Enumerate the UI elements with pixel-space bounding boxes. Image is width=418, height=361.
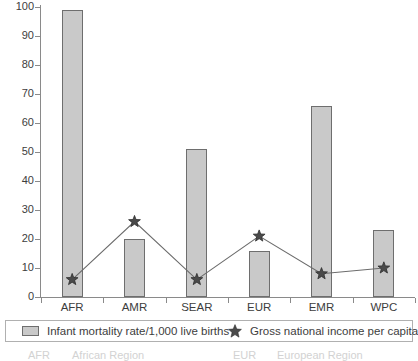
y-axis-tick-label: 100 <box>16 1 34 12</box>
y-axis-tick-mark <box>35 94 40 95</box>
y-axis-tick-mark <box>35 297 40 298</box>
bar-swatch-icon <box>22 326 39 336</box>
x-axis-label-eur: EUR <box>228 300 290 314</box>
chart-legend: Infant mortality rate/1,000 live births … <box>5 320 413 342</box>
y-axis-tick-label: 90 <box>22 30 34 41</box>
y-axis-tick-label: 70 <box>22 88 34 99</box>
legend-label-infant-mortality: Infant mortality rate/1,000 live births <box>47 324 229 338</box>
y-axis-tick-mark <box>35 36 40 37</box>
y-axis-tick-mark <box>35 7 40 8</box>
y-axis-tick-mark <box>35 268 40 269</box>
abbreviation-name: African Region <box>72 349 144 361</box>
y-axis-tick-label: 50 <box>22 146 34 157</box>
y-axis-tick-mark <box>35 181 40 182</box>
y-axis-tick-label: 10 <box>22 262 34 273</box>
y-axis-tick-mark <box>35 239 40 240</box>
star-marker-emr <box>316 268 328 279</box>
abbreviation-code: AFR <box>28 349 72 361</box>
abbreviation-entry: AFR African Region <box>28 349 144 361</box>
y-axis-tick-mark <box>35 152 40 153</box>
x-axis-label-emr: EMR <box>290 300 352 314</box>
y-axis-tick-label: 60 <box>22 117 34 128</box>
legend-item-infant-mortality: Infant mortality rate/1,000 live births <box>22 321 229 341</box>
y-axis-tick-mark <box>35 210 40 211</box>
abbreviation-entry: EUR European Region <box>233 349 363 361</box>
y-axis-tick-labels: 0102030405060708090100 <box>0 0 34 305</box>
chart-container: 0102030405060708090100 AFRAMRSEAREUREMRW… <box>0 0 418 361</box>
x-axis-tick-mark <box>415 298 416 303</box>
y-axis-tick-label: 40 <box>22 175 34 186</box>
abbreviation-key: AFR African Region EUR European Region <box>0 349 418 361</box>
y-axis-tick-mark <box>35 123 40 124</box>
y-axis-tick-label: 80 <box>22 59 34 70</box>
x-axis-label-afr: AFR <box>41 300 103 314</box>
abbreviation-code: EUR <box>233 349 277 361</box>
line-series-layer <box>41 7 415 297</box>
x-axis-label-amr: AMR <box>103 300 165 314</box>
x-axis-category-labels: AFRAMRSEAREUREMRWPC <box>41 300 415 316</box>
x-axis-label-wpc: WPC <box>353 300 415 314</box>
legend-item-gross-national-income: Gross national income per capita <box>228 321 418 341</box>
star-marker-icon <box>228 324 242 338</box>
y-axis-tick-label: 20 <box>22 233 34 244</box>
star-marker-wpc <box>378 262 390 273</box>
plot-area <box>41 7 415 297</box>
income-line-path <box>72 222 384 280</box>
plot-wrapper: 0102030405060708090100 AFRAMRSEAREUREMRW… <box>0 0 418 305</box>
y-axis-tick-label: 30 <box>22 204 34 215</box>
legend-label-gross-national-income: Gross national income per capita <box>250 324 418 338</box>
y-axis-tick-label: 0 <box>28 291 34 302</box>
x-axis-label-sear: SEAR <box>166 300 228 314</box>
y-axis-tick-mark <box>35 65 40 66</box>
abbreviation-name: European Region <box>277 349 363 361</box>
